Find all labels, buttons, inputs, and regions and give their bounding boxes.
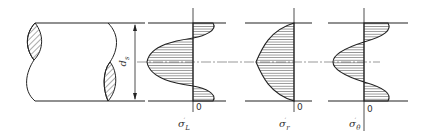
residual-stress-diagram [0, 0, 430, 137]
zero-label-tangential: 0 [367, 105, 373, 114]
right-section-hatch [104, 62, 116, 101]
stress-curve-tangential [333, 23, 389, 101]
panel-longitudinal [137, 8, 228, 112]
label-sigma-tangential: σ′θ [349, 117, 360, 132]
shaft [27, 23, 128, 101]
left-section-hatch [27, 23, 41, 60]
diameter-label: ds [118, 57, 131, 67]
label-sigma-radial: σ′r [279, 117, 290, 132]
stress-curve-radial [256, 23, 294, 101]
panel-radial [228, 8, 325, 112]
arrow-up-icon [133, 24, 137, 31]
zero-label-longitudinal: 0 [196, 103, 202, 112]
label-sigma-longitudinal: σ′L [178, 117, 190, 132]
zero-label-radial: 0 [297, 103, 303, 112]
arrow-down-icon [133, 93, 137, 100]
